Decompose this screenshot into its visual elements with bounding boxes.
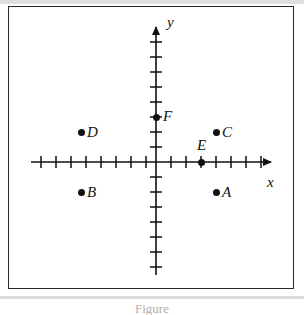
data-point-D[interactable] bbox=[78, 129, 85, 136]
x-axis-label: x bbox=[267, 175, 274, 190]
x-axis bbox=[31, 156, 271, 168]
plot-frame: D B C A E F x y bbox=[8, 6, 294, 289]
data-point-C[interactable] bbox=[213, 129, 220, 136]
data-point-B[interactable] bbox=[78, 189, 85, 196]
figure-container: D B C A E F x y Figure bbox=[0, 0, 304, 315]
data-point-F[interactable] bbox=[153, 114, 160, 121]
data-point-E[interactable] bbox=[198, 159, 205, 166]
axes-svg bbox=[9, 7, 295, 290]
data-point-label-A: A bbox=[222, 185, 231, 200]
y-axis bbox=[150, 27, 162, 275]
scan-edge-top bbox=[0, 0, 304, 4]
figure-caption-text: Figure bbox=[135, 303, 169, 315]
data-point-label-B: B bbox=[87, 185, 96, 200]
scan-edge-bottom bbox=[0, 296, 304, 299]
data-point-label-E: E bbox=[197, 138, 206, 153]
coordinate-plane bbox=[9, 7, 293, 288]
figure-caption: Figure bbox=[0, 303, 304, 315]
data-point-label-D: D bbox=[87, 125, 98, 140]
data-point-A[interactable] bbox=[213, 189, 220, 196]
data-point-label-C: C bbox=[222, 125, 232, 140]
data-point-label-F: F bbox=[163, 109, 172, 124]
y-axis-label: y bbox=[167, 15, 174, 30]
